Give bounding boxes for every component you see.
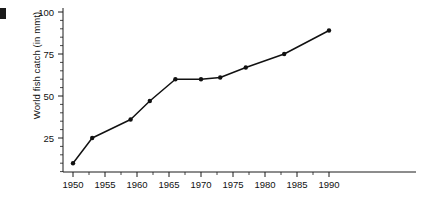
x-tick-label: 1990 [318, 179, 339, 190]
x-tick-label: 1970 [190, 179, 211, 190]
data-point-marker [282, 52, 286, 56]
y-tick-label-group: 255075100 [38, 7, 54, 144]
series-line [73, 30, 329, 163]
x-tick-label: 1955 [94, 179, 115, 190]
x-tick-label: 1965 [158, 179, 179, 190]
data-point-marker [327, 28, 331, 32]
x-tick-label: 1975 [222, 179, 243, 190]
data-point-marker [90, 136, 94, 140]
x-tick-label: 1950 [62, 179, 83, 190]
data-point-marker [128, 117, 132, 121]
data-point-marker [244, 65, 248, 69]
x-tick-label: 1980 [254, 179, 275, 190]
chart-screenshot: World fish catch (in mmt) 255075100 1950… [0, 0, 434, 209]
data-point-marker [199, 77, 203, 81]
line-chart-plot: 255075100 195019551960196519701975198019… [0, 0, 434, 209]
data-point-marker [173, 77, 177, 81]
y-tick-label: 50 [43, 91, 54, 102]
x-tick-label: 1960 [126, 179, 147, 190]
x-tick-label: 1985 [286, 179, 307, 190]
data-point-marker [71, 161, 75, 165]
y-tick-label: 100 [38, 7, 54, 18]
data-point-marker [218, 75, 222, 79]
axis-group [58, 8, 416, 177]
y-tick-label: 75 [43, 49, 54, 60]
data-series-group [71, 28, 331, 165]
y-tick-label: 25 [43, 133, 54, 144]
x-tick-label-group: 195019551960196519701975198019851990 [62, 179, 339, 190]
data-point-marker [148, 99, 152, 103]
